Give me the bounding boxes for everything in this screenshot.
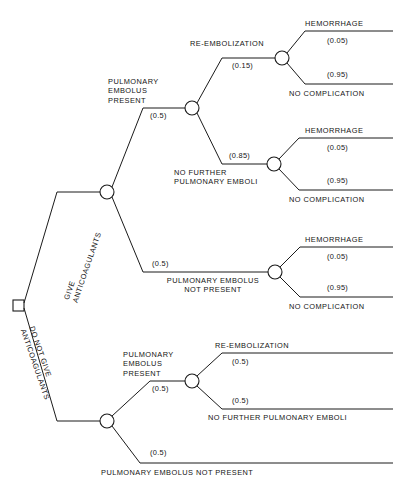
edge-no-further-emboli-lower [197, 386, 393, 409]
nfpe-upper-line1: NO FURTHER [174, 168, 258, 177]
chance-node-do-not-give[interactable] [100, 414, 114, 428]
label-no-further-emboli-lower: NO FURTHER PULMONARY EMBOLI [208, 413, 347, 422]
prob-no-complication-c: (0.95) [327, 283, 348, 292]
edge-embolus-not-present-lower [112, 426, 393, 463]
prob-embolus-present-lower: (0.5) [152, 384, 169, 393]
prob-no-further-emboli-lower: (0.5) [232, 396, 249, 405]
label-pulmonary-embolus-present-upper: PULMONARY EMBOLUS PRESENT [108, 77, 159, 105]
label-re-embolization-lower: RE-EMBOLIZATION [215, 341, 289, 350]
label-re-embolization-upper: RE-EMBOLIZATION [190, 39, 264, 48]
pe-present-lower-line1: PULMONARY [123, 350, 174, 359]
edge-re-embolization-lower [197, 353, 393, 376]
prob-embolus-present-upper: (0.5) [150, 111, 167, 120]
chance-node-embolus-present-lower[interactable] [185, 374, 199, 388]
pe-present-lower-line3: PRESENT [123, 369, 174, 378]
label-no-further-emboli-upper: NO FURTHER PULMONARY EMBOLI [174, 168, 258, 187]
pe-present-lower-line2: EMBOLUS [123, 359, 174, 368]
chance-node-re-embolization-upper[interactable] [275, 51, 289, 65]
label-hemorrhage-c: HEMORRHAGE [305, 235, 363, 244]
pe-present-upper-line1: PULMONARY [108, 77, 159, 86]
penp-upper-line1: PULMONARY EMBOLUS [148, 276, 278, 285]
chance-node-embolus-present-upper[interactable] [185, 101, 199, 115]
root-decision-square[interactable] [13, 300, 24, 311]
penp-upper-line2: NOT PRESENT [148, 285, 278, 294]
prob-re-embolization-upper: (0.15) [232, 61, 253, 70]
chance-node-no-further-emboli-upper[interactable] [267, 157, 281, 171]
prob-embolus-not-present-lower: (0.5) [150, 448, 167, 457]
prob-hemorrhage-b: (0.05) [327, 143, 348, 152]
prob-hemorrhage-c: (0.05) [327, 252, 348, 261]
prob-embolus-not-present-upper: (0.5) [152, 259, 169, 268]
label-embolus-not-present-upper: PULMONARY EMBOLUS NOT PRESENT [148, 276, 278, 295]
label-pulmonary-embolus-present-lower: PULMONARY EMBOLUS PRESENT [123, 350, 174, 378]
label-embolus-not-present-lower: PULMONARY EMBOLUS NOT PRESENT [101, 468, 253, 477]
edge-embolus-not-present-upper [112, 197, 275, 272]
label-no-complication-b: NO COMPLICATION [289, 195, 365, 204]
pe-present-upper-line3: PRESENT [108, 96, 159, 105]
decision-tree-diagram: GIVE ANTICOAGULANTS DO NOT GIVE ANTICOAG… [0, 0, 395, 487]
label-no-complication-a: NO COMPLICATION [289, 89, 365, 98]
pe-present-upper-line2: EMBOLUS [108, 86, 159, 95]
prob-no-complication-b: (0.95) [327, 176, 348, 185]
label-hemorrhage-b: HEMORRHAGE [305, 126, 363, 135]
prob-re-embolization-lower: (0.5) [232, 357, 249, 366]
nfpe-upper-line2: PULMONARY EMBOLI [174, 177, 258, 186]
chance-node-give[interactable] [100, 185, 114, 199]
prob-hemorrhage-a: (0.05) [327, 36, 348, 45]
label-no-complication-c: NO COMPLICATION [289, 302, 365, 311]
prob-no-further-emboli-upper: (0.85) [229, 151, 250, 160]
prob-no-complication-a: (0.95) [327, 70, 348, 79]
label-hemorrhage-a: HEMORRHAGE [305, 19, 363, 28]
